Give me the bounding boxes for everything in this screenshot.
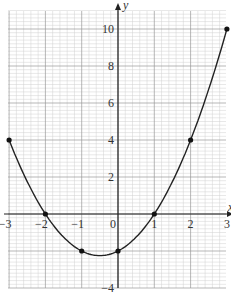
grid-major [8,11,226,288]
x-axis-label: x [227,200,231,214]
grid-minor [8,11,226,289]
data-point [224,26,229,31]
x-tick-label: −3 [0,217,11,231]
y-axis-arrow-icon [115,3,121,10]
y-tick-label: 10 [102,22,114,36]
y-tick-label: 8 [108,59,114,73]
x-tick-label: 3 [224,217,230,231]
x-tick-label: 1 [151,217,157,231]
data-point [152,211,157,216]
data-point [115,248,120,253]
data-point [43,211,48,216]
data-point [188,137,193,142]
y-axis-label: y [122,0,129,12]
y-tick-label: 4 [108,133,114,147]
x-tick-label: −2 [35,217,48,231]
y-tick-label: 2 [108,170,114,184]
parabola-chart: −3−2−10123−4246810yx [0,0,231,298]
x-tick-label: −1 [71,217,84,231]
y-tick-label: 6 [108,96,114,110]
data-point [7,137,12,142]
data-point [79,248,84,253]
x-tick-label: 2 [188,217,194,231]
x-tick-label: 0 [110,217,116,231]
y-tick-label: −4 [101,281,114,295]
